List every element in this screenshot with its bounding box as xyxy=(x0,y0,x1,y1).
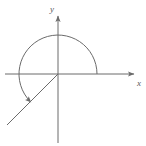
terminal-ray-line xyxy=(7,74,58,125)
coordinate-plane-svg: x y xyxy=(0,0,146,146)
x-axis-label: x xyxy=(136,78,141,88)
y-axis-label: y xyxy=(49,4,54,14)
angle-diagram-figure: x y xyxy=(0,0,146,146)
